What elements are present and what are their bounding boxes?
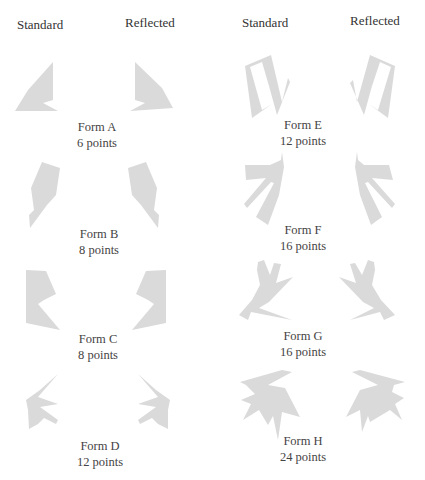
form-h-reflected-shape — [346, 370, 405, 432]
form-h-points: 24 points — [258, 449, 348, 465]
form-e-points: 12 points — [258, 133, 348, 149]
form-d-label: Form D 12 points — [55, 438, 145, 470]
form-e-standard-shape — [245, 55, 290, 118]
form-d-name: Form D — [55, 438, 145, 454]
form-a-name: Form A — [52, 119, 142, 135]
form-g-reflected-shape — [339, 260, 395, 320]
form-g-standard-shape — [239, 260, 293, 320]
form-a-standard-shape — [15, 62, 58, 111]
form-a-label: Form A 6 points — [52, 119, 142, 151]
form-h-standard-shape — [240, 370, 300, 440]
form-b-standard-shape — [29, 162, 60, 228]
form-d-reflected-shape — [138, 374, 170, 429]
form-a-points: 6 points — [52, 135, 142, 151]
form-e-reflected-shape — [350, 55, 395, 118]
form-d-standard-shape — [26, 374, 58, 429]
form-b-name: Form B — [54, 226, 144, 242]
form-e-label: Form E 12 points — [258, 117, 348, 149]
form-g-label: Form G 16 points — [258, 328, 348, 360]
form-g-name: Form G — [258, 328, 348, 344]
form-h-label: Form H 24 points — [258, 433, 348, 465]
form-c-name: Form C — [53, 331, 143, 347]
form-c-reflected-shape — [132, 270, 166, 330]
form-e-name: Form E — [258, 117, 348, 133]
form-b-reflected-shape — [128, 162, 159, 228]
form-h-name: Form H — [258, 433, 348, 449]
form-f-standard-shape — [244, 152, 284, 225]
form-a-reflected-shape — [130, 62, 173, 111]
form-f-name: Form F — [258, 222, 348, 238]
form-b-points: 8 points — [54, 242, 144, 258]
form-f-label: Form F 16 points — [258, 222, 348, 254]
form-c-label: Form C 8 points — [53, 331, 143, 363]
form-c-points: 8 points — [53, 347, 143, 363]
form-g-points: 16 points — [258, 344, 348, 360]
form-c-standard-shape — [26, 270, 60, 330]
form-f-reflected-shape — [355, 152, 395, 225]
form-d-points: 12 points — [55, 454, 145, 470]
form-f-points: 16 points — [258, 238, 348, 254]
form-b-label: Form B 8 points — [54, 226, 144, 258]
